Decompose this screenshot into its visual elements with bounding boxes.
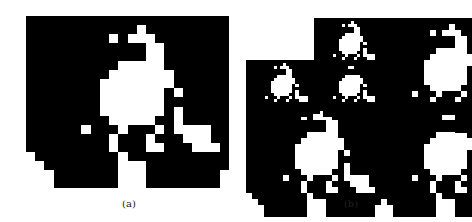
panel-a-bitmap [26,16,229,188]
caption-b: (b) [331,198,371,209]
caption-a: (a) [109,198,149,209]
panel-b [246,18,458,188]
pyramid-copy-small-mid-left [246,60,314,117]
panel-a [26,16,229,188]
pyramid-copy-small-mid-center [314,60,382,117]
pyramid-copy-large-top-right [375,18,472,133]
